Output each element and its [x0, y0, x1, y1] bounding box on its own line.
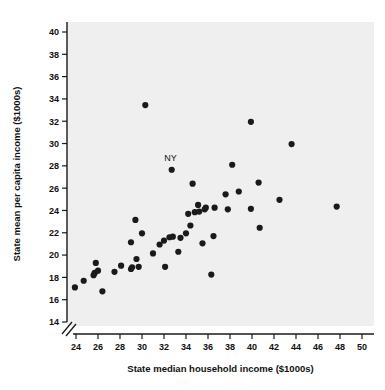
y-tick-label: 26 — [49, 184, 59, 194]
plot-canvas: 1416182022242628303234363840242628303234… — [0, 0, 385, 390]
x-tick-label: 50 — [357, 342, 367, 352]
x-tick-label: 46 — [313, 342, 323, 352]
data-point — [169, 167, 175, 173]
data-point — [256, 179, 262, 185]
y-tick-label: 28 — [49, 161, 59, 171]
data-point — [177, 235, 183, 241]
data-point — [99, 288, 105, 294]
y-tick-label: 20 — [49, 250, 59, 260]
x-tick-label: 32 — [159, 342, 169, 352]
y-tick-label: 16 — [49, 295, 59, 305]
x-tick-label: 40 — [247, 342, 257, 352]
data-point — [185, 211, 191, 217]
data-point — [276, 197, 282, 203]
data-point — [150, 250, 156, 256]
data-point — [187, 222, 193, 228]
x-tick-label: 28 — [115, 342, 125, 352]
x-tick-label: 36 — [203, 342, 213, 352]
y-tick-label: 36 — [49, 72, 59, 82]
x-tick-label: 26 — [93, 342, 103, 352]
data-point — [236, 188, 242, 194]
x-tick-label: 38 — [225, 342, 235, 352]
data-point — [133, 256, 139, 262]
y-tick-label: 32 — [49, 117, 59, 127]
y-tick-label: 14 — [49, 317, 59, 327]
data-point — [161, 237, 167, 243]
x-tick-label: 44 — [291, 342, 301, 352]
y-tick-label: 18 — [49, 273, 59, 283]
data-point — [223, 191, 229, 197]
data-point — [208, 272, 214, 278]
data-point — [248, 206, 254, 212]
data-point — [225, 206, 231, 212]
data-point — [210, 233, 216, 239]
data-point — [248, 119, 254, 125]
data-point — [289, 141, 295, 147]
data-point — [175, 249, 181, 255]
data-point — [334, 203, 340, 209]
y-tick-label: 30 — [49, 139, 59, 149]
data-point — [132, 217, 138, 223]
data-point — [196, 208, 202, 214]
data-point — [81, 278, 87, 284]
y-tick-label: 40 — [49, 27, 59, 37]
data-point — [257, 225, 263, 231]
data-point — [111, 269, 117, 275]
data-point — [203, 205, 209, 211]
data-point — [229, 162, 235, 168]
x-tick-label: 34 — [181, 342, 191, 352]
data-point — [199, 240, 205, 246]
y-axis-title: State mean per capita income ($1000s) — [11, 87, 22, 262]
data-point — [170, 234, 176, 240]
x-tick-label: 30 — [137, 342, 147, 352]
x-tick-label: 42 — [269, 342, 279, 352]
y-tick-label: 38 — [49, 50, 59, 60]
data-point — [118, 263, 124, 269]
data-point-label: NY — [164, 153, 177, 163]
data-point — [136, 264, 142, 270]
data-point — [72, 284, 78, 290]
y-tick-label: 24 — [49, 206, 59, 216]
x-tick-label: 48 — [335, 342, 345, 352]
data-point — [95, 268, 101, 274]
data-point — [128, 239, 134, 245]
data-point — [162, 264, 168, 270]
data-point — [195, 202, 201, 208]
x-axis-title: State median household income ($1000s) — [127, 363, 313, 374]
scatter-plot-figure: 1416182022242628303234363840242628303234… — [0, 0, 385, 390]
x-tick-label: 24 — [71, 342, 81, 352]
plot-area-background — [67, 22, 374, 326]
data-point — [129, 264, 135, 270]
data-point — [212, 205, 218, 211]
y-tick-label: 34 — [49, 94, 59, 104]
y-tick-label: 22 — [49, 228, 59, 238]
data-point — [139, 230, 145, 236]
data-point — [183, 230, 189, 236]
data-point — [93, 260, 99, 266]
data-point — [190, 181, 196, 187]
data-point — [142, 102, 148, 108]
